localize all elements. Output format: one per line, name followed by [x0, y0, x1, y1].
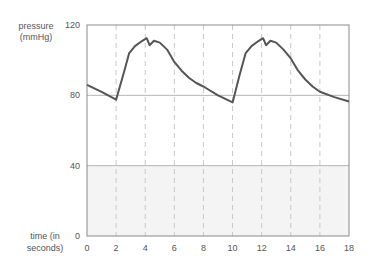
y-axis-label-line1: pressure: [18, 21, 53, 31]
y-axis-tick-labels: 04080120: [65, 20, 80, 241]
x-tick-14: 14: [286, 243, 296, 253]
x-tick-12: 12: [257, 243, 267, 253]
blood-pressure-chart: 04080120 024681012141618 pressure (mmHg)…: [0, 0, 372, 265]
x-tick-4: 4: [143, 243, 148, 253]
x-axis-tick-labels: 024681012141618: [84, 243, 354, 253]
low-pressure-shading: [87, 166, 349, 236]
x-tick-6: 6: [172, 243, 177, 253]
pressure-line: [87, 38, 349, 102]
x-tick-10: 10: [228, 243, 238, 253]
horizontal-gridlines: [87, 95, 349, 165]
x-tick-8: 8: [201, 243, 206, 253]
y-tick-120: 120: [65, 20, 80, 30]
y-axis-label-line2: (mmHg): [20, 32, 53, 42]
x-tick-2: 2: [114, 243, 119, 253]
x-tick-18: 18: [344, 243, 354, 253]
y-tick-80: 80: [70, 90, 80, 100]
x-axis-label-line2: seconds): [27, 243, 64, 253]
x-tick-16: 16: [315, 243, 325, 253]
x-axis-label-line1: time (in: [30, 231, 60, 241]
x-tick-0: 0: [84, 243, 89, 253]
y-tick-40: 40: [70, 161, 80, 171]
y-tick-0: 0: [75, 231, 80, 241]
